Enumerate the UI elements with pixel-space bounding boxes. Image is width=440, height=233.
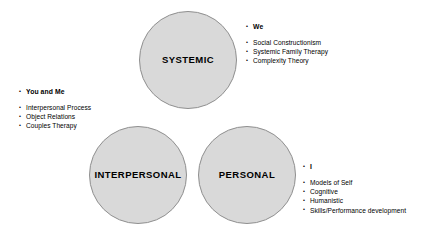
annotation-you-and-me-item: Interpersonal Process: [19, 103, 91, 112]
annotation-we-item: Complexity Theory: [246, 56, 328, 65]
annotation-we-heading: We: [246, 22, 328, 31]
circle-personal: PERSONAL: [198, 126, 296, 224]
annotation-we-item: Social Constructionism: [246, 38, 328, 47]
annotation-i-heading: I: [303, 162, 406, 171]
annotation-i-list: Models of Self Cognitive Humanistic Skil…: [303, 178, 406, 215]
annotation-we-item: Systemic Family Therapy: [246, 47, 328, 56]
annotation-you-and-me-list: Interpersonal Process Object Relations C…: [19, 103, 91, 131]
annotation-we-list: Social Constructionism Systemic Family T…: [246, 38, 328, 66]
circle-label-systemic: SYSTEMIC: [162, 55, 214, 65]
annotation-i-item: Models of Self: [303, 178, 406, 187]
annotation-you-and-me-item: Object Relations: [19, 112, 91, 121]
annotation-you-and-me: You and Me Interpersonal Process Object …: [19, 87, 91, 131]
annotation-i-item: Skills/Performance development: [303, 206, 406, 215]
annotation-you-and-me-item: Couples Therapy: [19, 121, 91, 130]
diagram-canvas: SYSTEMIC INTERPERSONAL PERSONAL We Socia…: [0, 0, 440, 233]
circle-interpersonal: INTERPERSONAL: [89, 126, 187, 224]
annotation-we: We Social Constructionism Systemic Famil…: [246, 22, 328, 66]
circle-systemic: SYSTEMIC: [139, 11, 237, 109]
circle-label-personal: PERSONAL: [219, 170, 275, 180]
annotation-i: I Models of Self Cognitive Humanistic Sk…: [303, 162, 406, 215]
circle-label-interpersonal: INTERPERSONAL: [94, 170, 181, 180]
annotation-i-item: Cognitive: [303, 187, 406, 196]
annotation-you-and-me-heading: You and Me: [19, 87, 91, 96]
annotation-i-item: Humanistic: [303, 196, 406, 205]
